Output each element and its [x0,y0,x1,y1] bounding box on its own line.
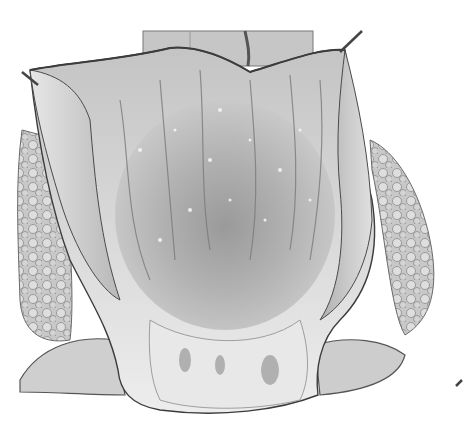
right-lower-band [315,340,405,395]
edge-mark [456,380,462,386]
right-lobulated-tissue [370,140,434,335]
left-lower-band [20,339,125,395]
mucosal-cavity [115,100,335,330]
illustration-canvas [0,0,464,426]
anatomical-illustration [0,0,464,426]
right-hook-icon [340,31,362,52]
